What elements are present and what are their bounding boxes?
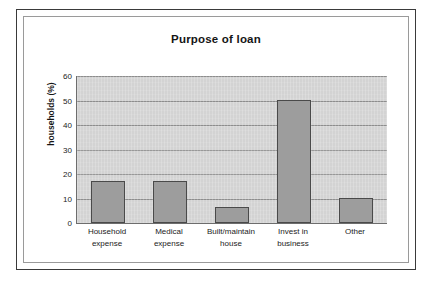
x-tick-label-line: expense (138, 238, 200, 250)
x-tick-label-line: house (200, 238, 262, 250)
bar-slot (77, 76, 139, 223)
x-tick-label-line: business (262, 238, 324, 250)
plot-area: 0102030405060 (76, 76, 387, 224)
x-tick-label-household-expense: Householdexpense (76, 226, 138, 249)
figure-inner-frame: Purpose of loan households (%) 010203040… (23, 16, 409, 263)
x-tick-label-invest-in-business: Invest inbusiness (262, 226, 324, 249)
bar-other[interactable] (339, 198, 373, 223)
y-axis-title: households (%) (46, 64, 56, 164)
y-tick-label-20: 20 (63, 170, 72, 179)
y-tick-label-0: 0 (68, 219, 72, 228)
x-tick-label-other: Other (324, 226, 386, 238)
bar-slot (201, 76, 263, 223)
y-tick-label-30: 30 (63, 146, 72, 155)
bars-group (77, 76, 387, 223)
bar-medical-expense[interactable] (153, 181, 187, 223)
bar-slot (263, 76, 325, 223)
bar-built-maintain-house[interactable] (215, 207, 249, 223)
bar-chart: Purpose of loan households (%) 010203040… (24, 17, 408, 262)
y-tick-label-60: 60 (63, 72, 72, 81)
x-tick-label-medical-expense: Medicalexpense (138, 226, 200, 249)
bar-slot (139, 76, 201, 223)
y-tick-label-40: 40 (63, 121, 72, 130)
x-tick-label-line: Household (76, 226, 138, 238)
x-tick-label-line: Invest in (262, 226, 324, 238)
y-tick-label-10: 10 (63, 195, 72, 204)
chart-title: Purpose of loan (24, 33, 408, 45)
y-tick-label-50: 50 (63, 97, 72, 106)
x-tick-label-line: Medical (138, 226, 200, 238)
x-tick-label-line: Other (324, 226, 386, 238)
figure-outer-frame: Purpose of loan households (%) 010203040… (16, 9, 416, 270)
x-tick-label-line: expense (76, 238, 138, 250)
x-tick-label-built-maintain-house: Built/maintainhouse (200, 226, 262, 249)
bar-household-expense[interactable] (91, 181, 125, 223)
x-tick-label-line: Built/maintain (200, 226, 262, 238)
bar-slot (325, 76, 387, 223)
x-axis-tick-labels: HouseholdexpenseMedicalexpenseBuilt/main… (76, 226, 387, 266)
bar-invest-in-business[interactable] (277, 100, 311, 223)
